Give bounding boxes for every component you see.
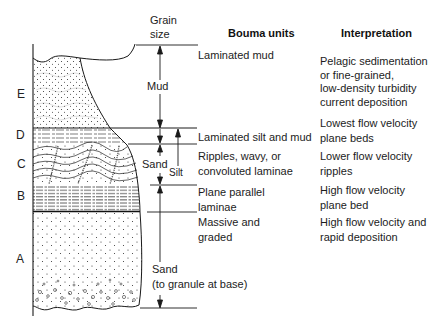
unit-b-fill	[33, 185, 140, 212]
interpretation-a: High flow velocity and rapid deposition	[320, 216, 426, 243]
bouma-units-header: Bouma units	[228, 27, 295, 39]
interp-d-line1: Lowest flow velocity	[320, 117, 417, 130]
grain-size-line2: size	[150, 28, 177, 41]
bouma-c-line1: Ripples, wavy, or	[198, 150, 293, 163]
interp-a-line2: rapid deposition	[320, 231, 426, 244]
interp-e-line4: current deposition	[320, 96, 428, 109]
unit-letter-a: A	[16, 252, 24, 266]
grain-size-line1: Grain	[150, 14, 177, 27]
sand-lower-line1: Sand	[152, 263, 247, 276]
interp-a-line1: High flow velocity and	[320, 216, 426, 229]
unit-letter-d: D	[16, 128, 25, 142]
interpretation-header: Interpretation	[341, 27, 412, 39]
interp-e-line3: low-density turbidity	[320, 82, 428, 95]
bouma-b: Plane parallel laminae	[198, 186, 265, 213]
bouma-b-line1: Plane parallel	[198, 186, 265, 199]
bouma-a-line1: Massive and	[198, 216, 260, 229]
interpretation-c: Lower flow velocity ripples	[320, 150, 412, 177]
interp-e-line2: or fine-grained,	[320, 69, 428, 82]
sand-lower-line2: (to granule at base)	[152, 278, 247, 291]
interp-c-line2: ripples	[320, 165, 412, 178]
unit-letter-b: B	[17, 189, 25, 203]
bouma-b-line2: laminae	[198, 201, 265, 214]
grain-size-header: Grain size	[150, 14, 177, 40]
interpretation-e: Pelagic sedimentation or fine-grained, l…	[320, 55, 428, 108]
bouma-d: Laminated silt and mud	[198, 131, 312, 144]
grain-label-silt: Silt	[169, 167, 183, 180]
silt-arrow	[176, 129, 181, 166]
interpretation-d: Lowest flow velocity plane beds	[320, 117, 417, 144]
interpretation-b: High flow velocity plane bed	[320, 184, 405, 211]
sand-upper-arrow	[158, 129, 163, 184]
unit-letter-c: C	[17, 157, 26, 171]
grain-label-sand-upper: Sand	[142, 158, 168, 171]
interp-c-line1: Lower flow velocity	[320, 150, 412, 163]
top-surface	[33, 44, 135, 62]
interp-e-line1: Pelagic sedimentation	[320, 55, 428, 68]
bouma-e: Laminated mud	[198, 49, 274, 62]
bouma-c: Ripples, wavy, or convoluted laminae	[198, 150, 293, 177]
interp-b-line1: High flow velocity	[320, 184, 405, 197]
bouma-a: Massive and graded	[198, 216, 260, 243]
grain-label-sand-lower: Sand (to granule at base)	[152, 263, 247, 290]
unit-letter-e: E	[17, 87, 25, 101]
interp-d-line2: plane beds	[320, 132, 417, 145]
interp-b-line2: plane bed	[320, 199, 405, 212]
bouma-c-line2: convoluted laminae	[198, 165, 293, 178]
unit-e-fill	[33, 56, 110, 128]
bouma-a-line2: graded	[198, 231, 260, 244]
grain-label-mud: Mud	[147, 80, 168, 93]
